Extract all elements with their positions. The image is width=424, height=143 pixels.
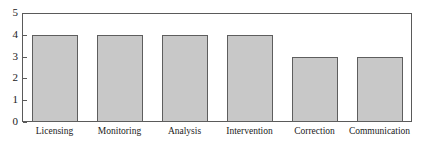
- x-axis-category-label: Licensing: [18, 126, 91, 137]
- x-axis-category-label: Intervention: [213, 126, 286, 137]
- x-axis-category-label: Communication: [343, 126, 416, 137]
- bar: [32, 35, 78, 122]
- x-axis-category-label: Correction: [278, 126, 351, 137]
- bar: [292, 57, 338, 122]
- x-axis-category-label: Monitoring: [83, 126, 156, 137]
- bar: [162, 35, 208, 122]
- bar-chart: 012345 LicensingMonitoringAnalysisInterv…: [0, 0, 424, 143]
- bar-series: LicensingMonitoringAnalysisInterventionC…: [0, 0, 424, 143]
- bar: [357, 57, 403, 122]
- x-axis-category-label: Analysis: [148, 126, 221, 137]
- bar: [97, 35, 143, 122]
- bar: [227, 35, 273, 122]
